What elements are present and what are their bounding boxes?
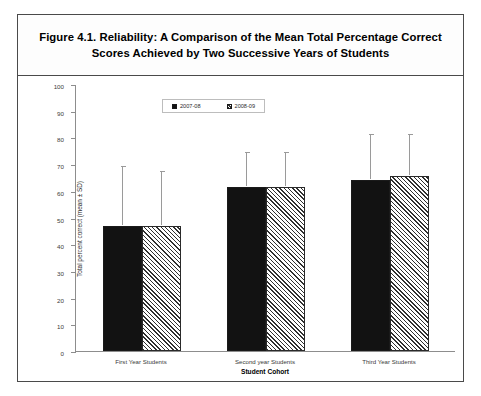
x-axis-tick-label: Second year Students	[235, 358, 295, 365]
y-axis-tick: 40	[71, 245, 76, 246]
y-axis-tick-label: 40	[57, 243, 64, 250]
plot-frame: 0102030405060708090100	[75, 85, 455, 352]
y-axis-tick-label: 50	[57, 216, 64, 223]
y-axis-tick-label: 30	[57, 269, 64, 276]
x-axis-tick-label: First Year Students	[115, 358, 167, 365]
x-axis-title: Student Cohort	[241, 368, 289, 375]
error-bar-cap	[121, 166, 126, 167]
y-axis-tick: 10	[71, 325, 76, 326]
y-axis-tick-label: 20	[57, 296, 64, 303]
legend-label: 2007-08	[180, 103, 201, 109]
y-axis-tick-label: 70	[57, 163, 64, 170]
legend-swatch-icon	[227, 104, 232, 109]
error-bar	[161, 171, 162, 224]
figure-container: Figure 4.1. Reliability: A Comparison of…	[0, 0, 481, 396]
y-axis-tick: 70	[71, 165, 76, 166]
bar-group	[351, 176, 429, 351]
error-bar	[370, 134, 371, 179]
legend-item-series-1: 2007-08	[172, 103, 201, 109]
error-bar-cap	[369, 134, 374, 135]
y-axis-tick-label: 90	[57, 109, 64, 116]
x-axis-tick-label: Third Year Students	[362, 358, 416, 365]
error-bar-cap	[284, 152, 289, 153]
bar-group	[103, 226, 181, 351]
bar[interactable]	[351, 180, 390, 351]
error-bar	[285, 152, 286, 185]
error-bar	[122, 166, 123, 225]
y-axis-tick-label: 80	[57, 136, 64, 143]
legend-item-series-2: 2008-09	[227, 103, 256, 109]
y-axis-tick: 20	[71, 299, 76, 300]
chart-legend: 2007-08 2008-09	[162, 99, 265, 113]
bar-group	[227, 187, 305, 351]
y-axis-tick-label: 10	[57, 323, 64, 330]
legend-label: 2008-09	[235, 103, 256, 109]
chart-plot-area: Total percent correct (mean ± SD) 010203…	[18, 77, 463, 381]
error-bar	[246, 152, 247, 185]
error-bar-cap	[408, 134, 413, 135]
legend-swatch-icon	[172, 104, 177, 109]
y-axis-tick: 80	[71, 138, 76, 139]
error-bar-cap	[245, 152, 250, 153]
y-axis-tick: 30	[71, 272, 76, 273]
bar[interactable]	[266, 187, 305, 351]
bar[interactable]	[227, 187, 266, 351]
figure-title: Figure 4.1. Reliability: A Comparison of…	[32, 29, 449, 61]
y-axis-tick-label: 100	[54, 83, 64, 90]
error-bar	[409, 134, 410, 175]
y-axis-tick: 0	[71, 352, 76, 353]
y-axis-tick: 50	[71, 219, 76, 220]
figure-title-box: Figure 4.1. Reliability: A Comparison of…	[17, 14, 464, 76]
error-bar-cap	[160, 171, 165, 172]
y-axis-tick-label: 0	[61, 350, 64, 357]
bar[interactable]	[103, 226, 142, 351]
y-axis-tick-label: 60	[57, 189, 64, 196]
y-axis-tick: 90	[71, 112, 76, 113]
y-axis-tick: 60	[71, 192, 76, 193]
bar[interactable]	[390, 176, 429, 351]
y-axis-tick: 100	[71, 85, 76, 86]
bar[interactable]	[142, 226, 181, 351]
